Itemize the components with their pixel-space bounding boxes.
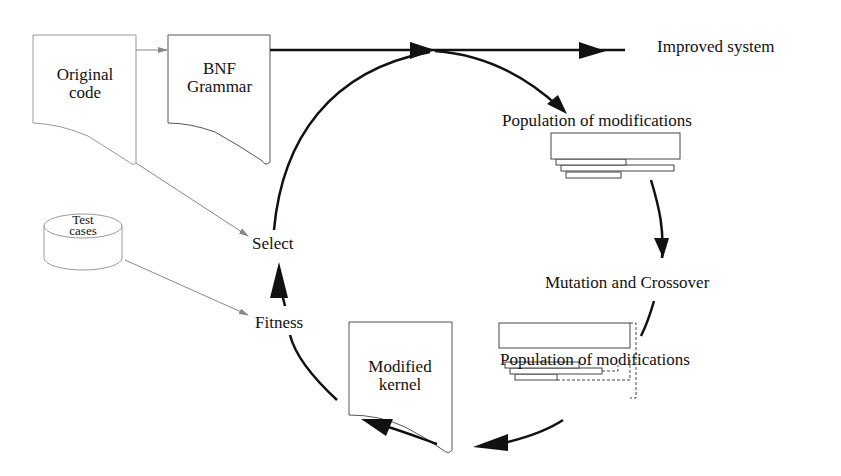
- test-cases-label: Test cases: [52, 214, 114, 236]
- bnf-grammar-line2: Grammar: [172, 78, 267, 96]
- arc-select-to-top: [274, 52, 430, 230]
- bnf-grammar-line1: BNF: [172, 60, 267, 78]
- arrowhead-improved: [579, 42, 606, 59]
- fitness-label: Fitness: [255, 314, 303, 331]
- bnf-grammar-label: BNF Grammar: [172, 60, 267, 96]
- population-top-stack: [551, 133, 680, 178]
- original-code-line2: code: [40, 84, 130, 102]
- original-code-line1: Original: [40, 66, 130, 84]
- arrow-code-to-select: [136, 163, 248, 236]
- arc-top-to-population: [435, 51, 560, 108]
- select-label: Select: [252, 235, 294, 252]
- arrowhead-to-kernel: [473, 434, 508, 451]
- test-cases-line2: cases: [52, 225, 114, 236]
- mutation-crossover-label: Mutation and Crossover: [545, 274, 709, 291]
- population-bottom-label: Population of modifications: [500, 351, 690, 368]
- bnf-grammar-document: [168, 35, 270, 164]
- arrow-tests-to-fitness: [125, 260, 248, 315]
- arrowhead-select: [270, 262, 288, 298]
- arc-kernel-to-fitness: [290, 335, 337, 400]
- improved-system-label: Improved system: [657, 38, 775, 55]
- original-code-label: Original code: [40, 66, 130, 102]
- modified-kernel-line2: kernel: [352, 376, 448, 394]
- modified-kernel-label: Modified kernel: [352, 358, 448, 394]
- population-top-label: Population of modifications: [502, 112, 692, 129]
- modified-kernel-line1: Modified: [352, 358, 448, 376]
